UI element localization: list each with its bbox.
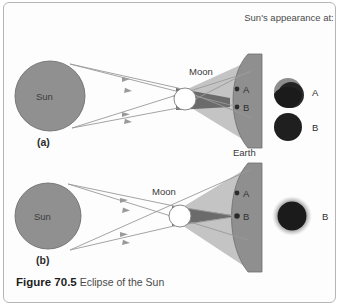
figure-caption: Figure 70.5 Eclipse of the Sun	[16, 276, 164, 288]
moon-label-a: Moon	[189, 66, 213, 77]
appearance-label-b-panel-b: B	[322, 211, 328, 222]
point-a-label-b: A	[243, 188, 249, 199]
point-a-label-a: A	[243, 84, 249, 95]
appearance-disk-b-corona	[272, 196, 312, 236]
legend-header: Sun's appearance at:	[243, 12, 335, 24]
panel-b-graphics	[15, 163, 312, 272]
appearance-label-a: A	[312, 87, 318, 98]
moon-label-b: Moon	[152, 186, 176, 197]
observer-point-a	[235, 87, 240, 92]
panel-label-b: (b)	[36, 255, 49, 266]
observer-point-a-b	[235, 191, 240, 196]
panel-label-a: (a)	[37, 137, 50, 148]
figure-title: Eclipse of the Sun	[80, 276, 165, 288]
eclipse-diagram	[0, 0, 339, 306]
point-b-label-b: B	[243, 211, 249, 222]
sun-label-b: Sun	[34, 211, 51, 222]
figure-page: Sun's appearance at: Sun (a) Moon A B Ea…	[0, 0, 339, 306]
figure-number: Figure 70.5	[16, 276, 77, 288]
point-b-label-a: B	[243, 102, 249, 113]
appearance-disk-b-total	[274, 113, 302, 141]
earth-label-a: Earth	[233, 147, 256, 158]
moon-body-a	[174, 88, 196, 110]
moon-body-b	[169, 205, 191, 227]
appearance-disk-a-partial	[274, 78, 304, 108]
observer-point-b-b	[234, 213, 240, 219]
observer-point-b	[235, 105, 240, 110]
sun-label-a: Sun	[36, 91, 53, 102]
panel-a-graphics	[15, 54, 304, 148]
appearance-label-b: B	[312, 122, 318, 133]
